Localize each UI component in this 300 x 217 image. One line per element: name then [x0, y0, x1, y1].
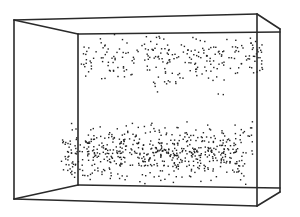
scatter-points — [61, 34, 263, 185]
top-outer-edge-right — [257, 14, 280, 29]
top-outer-edge — [14, 14, 257, 20]
box-wireframe — [14, 14, 280, 206]
bottom-back-edge — [78, 185, 280, 188]
bottom-left-diagonal — [14, 185, 78, 199]
bottom-outer-edge — [14, 199, 257, 206]
top-back-edge — [78, 32, 280, 34]
box-diagram — [0, 0, 300, 217]
particle-box-figure — [0, 0, 300, 217]
top-left-diagonal — [14, 20, 78, 34]
bottom-right-diagonal — [257, 192, 280, 206]
